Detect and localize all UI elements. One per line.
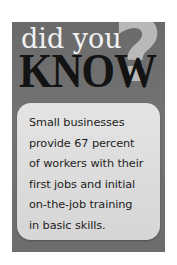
fact-line: Small businesses xyxy=(29,113,152,134)
fact-text: Small businesses provide 67 percent of w… xyxy=(29,113,152,237)
fact-line: in basic skills. xyxy=(29,216,152,237)
fact-line: of workers with their xyxy=(29,154,152,175)
fact-line: on-the-job training xyxy=(29,195,152,216)
headline-line-know: KNOW xyxy=(19,47,156,95)
fact-line: first jobs and initial xyxy=(29,175,152,196)
fact-line: provide 67 percent xyxy=(29,134,152,155)
fact-card: Small businesses provide 67 percent of w… xyxy=(17,103,160,240)
did-you-know-callout: ? did you KNOW Small businesses provide … xyxy=(0,0,177,265)
callout-panel: ? did you KNOW Small businesses provide … xyxy=(12,22,165,252)
callout-headline: ? did you KNOW xyxy=(12,22,165,106)
